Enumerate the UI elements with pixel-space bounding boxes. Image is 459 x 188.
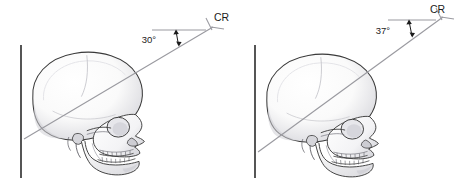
cr-label-right: CR (430, 3, 446, 15)
figure-root: 30° CR (0, 0, 459, 188)
angle-label-right: 37° (376, 25, 391, 36)
angle-arrow-right (406, 19, 415, 37)
skull-lateral-left (33, 52, 145, 175)
positioning-diagram: 30° CR (0, 0, 459, 188)
cr-label-left: CR (214, 11, 230, 23)
skull-lateral-right (267, 54, 379, 177)
angle-arrow-left (173, 29, 181, 46)
panel-right: 37° CR (255, 3, 454, 178)
angle-label-left: 30° (142, 34, 157, 45)
panel-left: 30° CR (21, 11, 230, 178)
